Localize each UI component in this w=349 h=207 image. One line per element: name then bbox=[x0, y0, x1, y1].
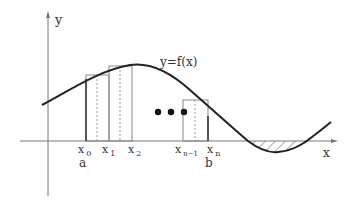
y-axis-arrow-icon bbox=[46, 11, 50, 18]
curve-label: y=f(x) bbox=[159, 55, 197, 69]
interval-bounds bbox=[86, 79, 208, 141]
a-label: a bbox=[79, 156, 86, 170]
x-axis-arrow-icon bbox=[331, 139, 338, 143]
x2-label: x2 bbox=[128, 143, 141, 158]
b-label: b bbox=[205, 156, 213, 170]
ellipsis-dots bbox=[155, 109, 187, 115]
x1-label: x1 bbox=[102, 143, 115, 158]
riemann-sum-diagram: y x y=f(x) x0 x1 x2 xn−1 xn a b bbox=[0, 0, 349, 207]
sample-point-lines bbox=[97, 66, 195, 141]
x-axis-label: x bbox=[323, 146, 330, 160]
riemann-rectangles bbox=[86, 66, 208, 141]
y-axis-label: y bbox=[54, 12, 63, 27]
partition-labels: x0 x1 x2 xn−1 xn a b bbox=[78, 143, 220, 170]
xn-1-label: xn−1 bbox=[175, 143, 198, 158]
